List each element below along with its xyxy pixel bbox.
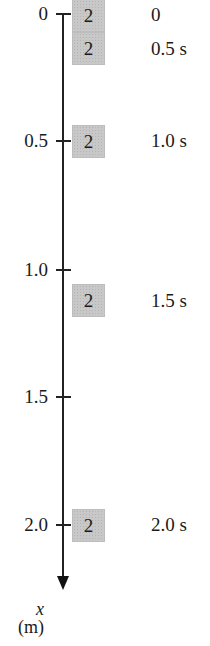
time-label-t1.0: 1.0 s [151, 131, 187, 151]
tick-label-2.0: 2.0 [0, 515, 48, 535]
tick-2.0 [56, 524, 71, 526]
object-box-t1.0: 2 [72, 125, 105, 158]
object-box-t0: 2 [72, 0, 105, 32]
tick-label-0: 0 [0, 4, 48, 24]
tick-0.5 [56, 140, 71, 142]
object-box-t1.5: 2 [72, 284, 105, 317]
time-label-t0: 0 [151, 5, 161, 25]
tick-0 [56, 13, 71, 15]
object-box-t2.0: 2 [72, 509, 105, 542]
tick-1.5 [56, 396, 71, 398]
tick-label-1.0: 1.0 [0, 260, 48, 280]
tick-label-0.5: 0.5 [0, 131, 48, 151]
axis-unit-label: (m) [18, 617, 44, 638]
time-label-t0.5: 0.5 s [151, 39, 187, 59]
object-box-t0.5: 2 [72, 32, 105, 65]
arrow-down-icon [57, 576, 69, 590]
tick-1.0 [56, 269, 71, 271]
time-label-t1.5: 1.5 s [151, 291, 187, 311]
tick-label-1.5: 1.5 [0, 387, 48, 407]
time-label-t2.0: 2.0 s [151, 515, 187, 535]
axis-line [62, 14, 64, 580]
